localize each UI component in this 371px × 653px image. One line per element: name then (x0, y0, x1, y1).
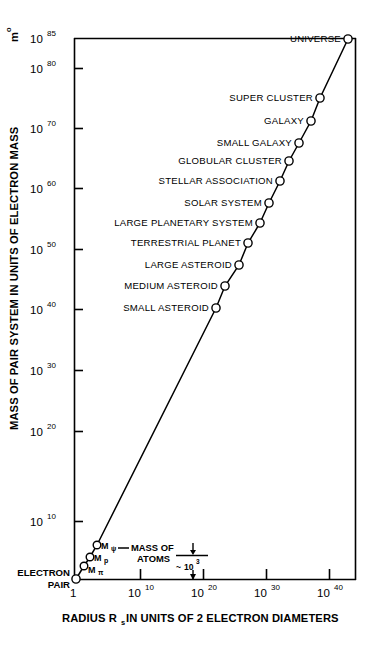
x-axis-title-sub: s (121, 618, 125, 627)
marker-large-asteroid[interactable] (235, 261, 243, 269)
marker-globular-cluster[interactable] (285, 157, 293, 165)
marker-electron-pair[interactable] (72, 575, 80, 583)
electron-pair-line1: ELECTRON (17, 567, 70, 578)
x-axis-title: RADIUS R s IN UNITS OF 2 ELECTRON DIAMET… (62, 612, 339, 627)
y-tick-label-80-exp: 80 (47, 59, 56, 68)
y-tick-label-50-base: 10 (30, 244, 43, 256)
marker-solar-system[interactable] (265, 199, 273, 207)
label-super-cluster: SUPER CLUSTER (229, 92, 313, 103)
data-point-labels: UNIVERSE SUPER CLUSTER GALAXY SMALL GALA… (114, 33, 341, 313)
electron-pair-label: ELECTRON PAIR (17, 567, 70, 590)
x-tick-label-30-base: 10 (254, 587, 267, 599)
x-axis-title-rest: IN UNITS OF 2 ELECTRON DIAMETERS (126, 612, 339, 624)
marker-small-asteroid[interactable] (212, 304, 220, 312)
y-tick-label-40-base: 10 (30, 304, 43, 316)
label-galaxy: GALAXY (264, 115, 304, 126)
x-tick-label-20-exp: 20 (208, 583, 217, 592)
x-tick-label-10-base: 10 (128, 587, 141, 599)
y-tick-label-20-exp: 20 (47, 422, 56, 431)
label-large-asteroid: LARGE ASTEROID (145, 259, 232, 270)
x-axis-tick-labels: 1 10 10 10 20 10 30 10 40 (70, 583, 343, 599)
electron-pair-line2: PAIR (48, 579, 70, 590)
y-tick-label-80-base: 10 (30, 63, 43, 75)
label-medium-asteroid: MEDIUM ASTEROID (124, 280, 218, 291)
marker-galaxy[interactable] (307, 117, 315, 125)
x-tick-label-40-exp: 40 (334, 583, 343, 592)
y-tick-label-40-exp: 40 (47, 300, 56, 309)
mass-radius-log-log-chart: 10 85 10 80 10 70 10 60 10 50 10 40 10 3… (0, 0, 371, 653)
x-axis-title-main: RADIUS R (62, 612, 117, 624)
marker-medium-asteroid[interactable] (221, 282, 229, 290)
marker-large-planetary-system[interactable] (256, 219, 264, 227)
label-m-pi-m: M (88, 565, 96, 575)
x-tick-label-40-base: 10 (317, 587, 330, 599)
x-tick-label-1: 1 (70, 587, 76, 599)
approx-value-exp: 3 (196, 558, 200, 565)
label-m-p-m: M (94, 553, 102, 563)
marker-terrestrial-planet[interactable] (244, 239, 252, 247)
approx-value-prefix: ~ (176, 562, 181, 572)
y-axis-title: MASS OF PAIR SYSTEM IN UNITS OF ELECTRON… (4, 27, 20, 430)
y-axis-ticks (74, 69, 83, 522)
label-large-planetary-system: LARGE PLANETARY SYSTEM (114, 217, 253, 228)
y-tick-label-30-base: 10 (30, 365, 43, 377)
label-m-p-sub: p (104, 557, 108, 565)
y-axis-title-symbol-sub: o (4, 27, 13, 32)
y-tick-label-20-base: 10 (30, 426, 43, 438)
y-tick-label-85-exp: 85 (47, 29, 56, 38)
label-terrestrial-planet: TERRESTRIAL PLANET (131, 237, 241, 248)
label-m-psi-sub: ψ (111, 545, 116, 553)
y-tick-label-50-exp: 50 (47, 240, 56, 249)
y-tick-label-60-exp: 60 (47, 179, 56, 188)
label-stellar-association: STELLAR ASSOCIATION (159, 175, 273, 186)
marker-super-cluster[interactable] (316, 94, 324, 102)
y-tick-label-10-base: 10 (30, 516, 43, 528)
label-solar-system: SOLAR SYSTEM (184, 197, 262, 208)
y-axis-title-text: MASS OF PAIR SYSTEM IN UNITS OF ELECTRON… (8, 126, 20, 430)
marker-m-pi[interactable] (80, 562, 88, 570)
y-tick-label-60-base: 10 (30, 183, 43, 195)
x-tick-label-30-exp: 30 (271, 583, 280, 592)
mass-of-atoms-annotation: MASS OF ATOMS ~ 10 3 (118, 542, 208, 580)
label-universe: UNIVERSE (290, 33, 341, 44)
y-axis-title-symbol: m (8, 32, 20, 42)
y-tick-label-70-base: 10 (30, 123, 43, 135)
marker-universe[interactable] (344, 35, 352, 43)
marker-small-galaxy[interactable] (295, 139, 303, 147)
y-tick-label-30-exp: 30 (47, 361, 56, 370)
x-axis-ticks (141, 569, 330, 580)
annotation-arrow-upper-head (190, 550, 196, 555)
y-tick-label-85-base: 10 (30, 33, 43, 45)
y-axis-tick-labels: 10 85 10 80 10 70 10 60 10 50 10 40 10 3… (30, 29, 56, 528)
label-m-pi-sub: π (98, 569, 104, 576)
x-tick-label-20-base: 10 (191, 587, 204, 599)
marker-stellar-association[interactable] (276, 177, 284, 185)
marker-m-p[interactable] (86, 553, 94, 561)
label-m-psi-m: M (101, 541, 109, 551)
y-tick-label-70-exp: 70 (47, 119, 56, 128)
data-point-markers (72, 35, 352, 583)
mass-of-atoms-line2: ATOMS (137, 553, 170, 564)
chart-svg: 10 85 10 80 10 70 10 60 10 50 10 40 10 3… (0, 0, 371, 653)
x-tick-label-10-exp: 10 (145, 583, 154, 592)
marker-m-psi[interactable] (93, 541, 101, 549)
label-small-asteroid: SMALL ASTEROID (123, 302, 209, 313)
label-globular-cluster: GLOBULAR CLUSTER (178, 155, 282, 166)
y-tick-label-10-exp: 10 (47, 512, 56, 521)
mass-of-atoms-line1: MASS OF (131, 542, 174, 553)
label-small-galaxy: SMALL GALAXY (217, 137, 293, 148)
